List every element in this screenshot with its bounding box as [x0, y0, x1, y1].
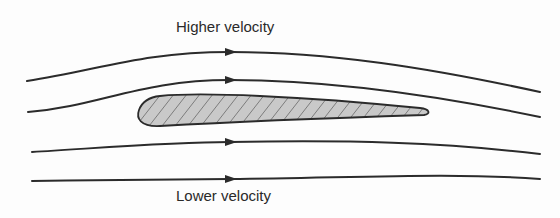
flow-arrow-icon: [225, 138, 237, 146]
airfoil-diagram: Higher velocity Lower velocity: [0, 0, 560, 218]
flow-arrow-icon: [225, 175, 237, 183]
airfoil: [100, 80, 460, 140]
diagram-svg: [0, 0, 560, 218]
flow-arrow-icon: [225, 48, 237, 56]
higher-velocity-label: Higher velocity: [176, 18, 274, 35]
streamline-3: [32, 141, 540, 154]
flow-arrow-icon: [225, 76, 237, 84]
lower-velocity-label: Lower velocity: [176, 187, 271, 204]
streamline-4: [32, 176, 540, 181]
streamline-1: [27, 52, 540, 92]
